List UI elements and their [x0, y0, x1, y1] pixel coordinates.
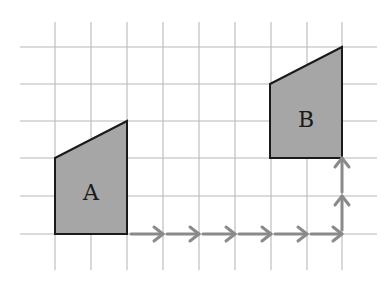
- translation-diagram: AB: [0, 0, 387, 283]
- diagram-canvas: AB: [0, 0, 387, 283]
- translation-arrow-icon: [203, 227, 235, 241]
- translation-arrow-icon: [275, 227, 307, 241]
- shape-label: B: [298, 107, 314, 132]
- translation-arrow-icon: [239, 227, 271, 241]
- translation-arrows: [131, 158, 349, 241]
- translation-arrow-icon: [311, 227, 342, 241]
- translation-arrow-icon: [167, 227, 199, 241]
- shape-b-polygon: [270, 47, 342, 158]
- translation-arrow-icon: [335, 158, 349, 192]
- shape-b: B: [270, 47, 342, 158]
- translation-arrow-icon: [131, 227, 163, 241]
- translation-arrow-icon: [335, 196, 349, 230]
- shape-label: A: [82, 180, 100, 205]
